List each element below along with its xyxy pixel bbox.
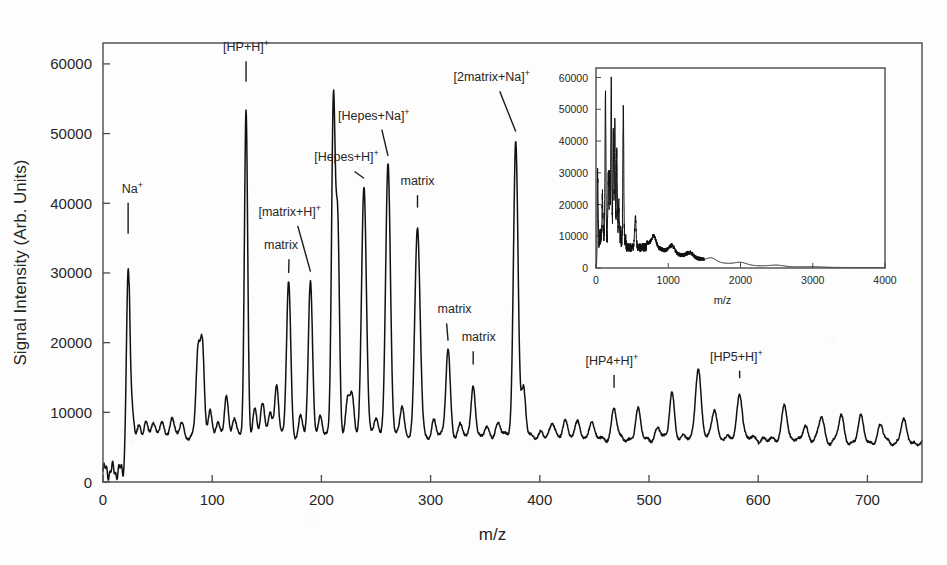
peak-annotation: [HP+H]+ bbox=[223, 38, 269, 81]
peak-annotation: [Hepes+H]+ bbox=[314, 148, 379, 178]
inset-x-tick-label: 1000 bbox=[657, 274, 681, 286]
x-tick-label: 500 bbox=[636, 491, 661, 508]
figure-root: 0100200300400500600700010000200003000040… bbox=[0, 0, 947, 565]
inset-y-tick-label: 30000 bbox=[559, 167, 588, 179]
inset-y-tick-label: 20000 bbox=[559, 199, 588, 211]
peak-annotation: [2matrix+Na]+ bbox=[454, 68, 530, 131]
x-tick-label: 300 bbox=[418, 491, 443, 508]
y-tick-label: 60000 bbox=[50, 55, 92, 72]
peak-label-text: [Hepes+H]+ bbox=[314, 148, 379, 164]
inset-x-tick-label: 0 bbox=[593, 274, 599, 286]
x-tick-label: 100 bbox=[200, 491, 225, 508]
mass-spectrum-chart: 0100200300400500600700010000200003000040… bbox=[0, 0, 947, 565]
peak-label-text: [HP4+H]+ bbox=[585, 352, 638, 368]
peak-annotation: matrix bbox=[462, 330, 497, 364]
peak-label-text: Na+ bbox=[122, 180, 143, 196]
y-tick-label: 20000 bbox=[50, 334, 92, 351]
peak-annotation: [matrix+H]+ bbox=[258, 203, 321, 272]
peak-annotation: [HP5+H]+ bbox=[710, 348, 763, 378]
y-axis-title: Signal Intensity (Arb. Units) bbox=[11, 160, 30, 366]
peak-label-text: [HP+H]+ bbox=[223, 38, 269, 54]
inset-x-tick-label: 2000 bbox=[729, 274, 753, 286]
inset-y-tick-label: 50000 bbox=[559, 103, 588, 115]
peak-annotation: Na+ bbox=[122, 180, 143, 234]
inset-y-tick-label: 60000 bbox=[559, 72, 588, 84]
leader-line bbox=[447, 323, 448, 340]
peak-label-text: matrix bbox=[438, 302, 473, 316]
x-tick-label: 400 bbox=[527, 491, 552, 508]
peak-label-text: [Hepes+Na]+ bbox=[338, 107, 410, 123]
peak-label-text: matrix bbox=[264, 238, 299, 252]
inset-x-tick-label: 4000 bbox=[873, 274, 897, 286]
peak-label-text: [matrix+H]+ bbox=[258, 203, 321, 219]
y-tick-label: 50000 bbox=[50, 125, 92, 142]
peak-label-text: [HP5+H]+ bbox=[710, 348, 763, 364]
inset-plot: 0100020003000400001000020000300004000050… bbox=[559, 68, 897, 306]
inset-x-tick-label: 3000 bbox=[801, 274, 825, 286]
peak-label-text: [2matrix+Na]+ bbox=[454, 68, 530, 84]
inset-background bbox=[596, 68, 885, 268]
x-tick-label: 600 bbox=[746, 491, 771, 508]
inset-y-tick-label: 10000 bbox=[559, 230, 588, 242]
x-tick-label: 0 bbox=[99, 491, 107, 508]
peak-annotation: matrix bbox=[264, 238, 299, 273]
inset-y-tick-label: 0 bbox=[582, 262, 588, 274]
x-tick-label: 700 bbox=[855, 491, 880, 508]
x-axis-title: m/z bbox=[479, 525, 506, 544]
leader-line bbox=[500, 91, 516, 131]
y-tick-label: 30000 bbox=[50, 264, 92, 281]
leader-line bbox=[382, 130, 388, 156]
peak-label-text: matrix bbox=[462, 330, 497, 344]
y-tick-label: 0 bbox=[84, 474, 92, 491]
inset-x-axis-title: m/z bbox=[714, 294, 732, 306]
peak-annotation: matrix bbox=[400, 174, 435, 207]
y-tick-label: 10000 bbox=[50, 404, 92, 421]
leader-line bbox=[298, 226, 311, 272]
peak-label-text: matrix bbox=[400, 174, 435, 188]
x-tick-label: 200 bbox=[309, 491, 334, 508]
inset-y-tick-label: 40000 bbox=[559, 135, 588, 147]
peak-annotation: [HP4+H]+ bbox=[585, 352, 638, 388]
leader-line bbox=[355, 171, 364, 178]
y-tick-label: 40000 bbox=[50, 195, 92, 212]
